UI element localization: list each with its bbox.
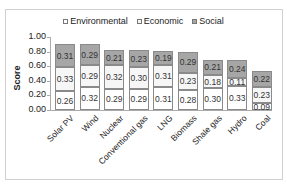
y-tick-label: 0.80 [10, 46, 46, 56]
bar-segment-social: 0.29 [80, 44, 100, 65]
y-tick-label: 1.00 [10, 31, 46, 41]
bar-segment-economic: 0.31 [153, 65, 173, 88]
bar-segment-social: 0.29 [178, 52, 198, 73]
y-tick-label: 0.20 [10, 89, 46, 99]
bar-segment-social: 0.21 [104, 50, 124, 65]
swatch-economic [137, 19, 142, 24]
legend: Environmental Economic Social [0, 16, 287, 26]
legend-label: Social [199, 16, 224, 26]
bar-segment-social: 0.24 [227, 60, 247, 78]
legend-label: Economic [144, 16, 184, 26]
bar-segment-economic: 0.23 [252, 87, 272, 104]
legend-item-environmental: Environmental [63, 16, 128, 26]
bar-segment-environmental: 0.31 [153, 87, 173, 110]
bar-segment-economic: 0.33 [55, 67, 75, 91]
bar-segment-social: 0.23 [129, 50, 149, 67]
bar-segment-economic: 0.29 [80, 65, 100, 86]
bar-segment-economic: 0.32 [104, 65, 124, 88]
bar-segment-social: 0.31 [55, 44, 75, 67]
bar-segment-environmental: 0.33 [227, 86, 247, 110]
bar-segment-environmental: 0.29 [129, 89, 149, 110]
legend-label: Environmental [70, 16, 128, 26]
y-tick-label: 0.60 [10, 60, 46, 70]
y-tick-label: 0.00 [10, 104, 46, 114]
bar-segment-environmental: 0.32 [80, 87, 100, 110]
y-axis [50, 37, 51, 110]
bar-segment-environmental: 0.28 [178, 90, 198, 110]
y-tick-label: 0.40 [10, 75, 46, 85]
bar-segment-environmental: 0.26 [55, 91, 75, 110]
bar-segment-economic: 0.18 [203, 75, 223, 88]
bar-segment-economic: 0.30 [129, 67, 149, 89]
bar-segment-social: 0.22 [252, 71, 272, 87]
bar-segment-environmental: 0.30 [203, 88, 223, 110]
x-axis [50, 110, 272, 111]
bar-segment-environmental: 0.09 [252, 103, 272, 110]
bar-segment-social: 0.19 [153, 51, 173, 65]
bar-segment-environmental: 0.29 [104, 89, 124, 110]
bar-segment-social: 0.21 [203, 60, 223, 75]
legend-item-social: Social [192, 16, 224, 26]
swatch-social [192, 19, 197, 24]
bar-segment-economic: 0.11 [227, 78, 247, 86]
bar-segment-economic: 0.23 [178, 73, 198, 90]
legend-item-economic: Economic [137, 16, 184, 26]
swatch-environmental [63, 19, 68, 24]
